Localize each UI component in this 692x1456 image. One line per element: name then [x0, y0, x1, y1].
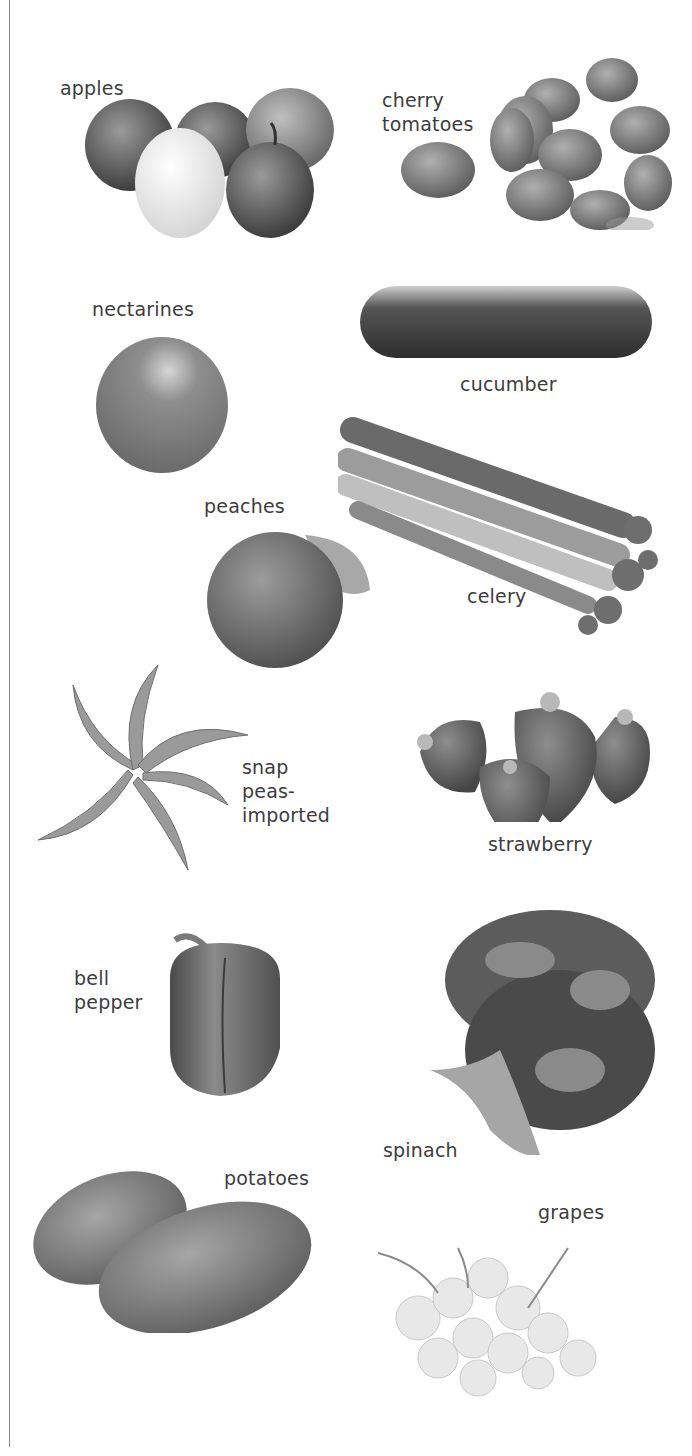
- snap-peas-image: [38, 665, 248, 870]
- label-snap-peas-imported: snap peas- imported: [242, 755, 330, 827]
- label-celery: celery: [467, 584, 526, 608]
- spinach-image: [400, 900, 660, 1155]
- label-bell-pepper: bell pepper: [74, 966, 143, 1014]
- left-border-rule: [9, 0, 10, 1447]
- label-strawberry: strawberry: [488, 832, 593, 856]
- potatoes-image: [25, 1168, 320, 1333]
- cherry-tomatoes-image: [400, 55, 675, 230]
- bell-pepper-image: [165, 928, 300, 1098]
- label-peaches: peaches: [204, 494, 285, 518]
- label-nectarines: nectarines: [92, 297, 194, 321]
- produce-page: apples cherry tomatoes: [0, 0, 692, 1456]
- apples-image: [85, 85, 345, 240]
- nectarines-image: [95, 335, 230, 475]
- label-cucumber: cucumber: [460, 372, 557, 396]
- label-grapes: grapes: [538, 1200, 604, 1224]
- strawberry-image: [410, 682, 655, 822]
- cucumber-image: [358, 282, 654, 362]
- label-spinach: spinach: [383, 1138, 458, 1162]
- grapes-image: [378, 1238, 618, 1398]
